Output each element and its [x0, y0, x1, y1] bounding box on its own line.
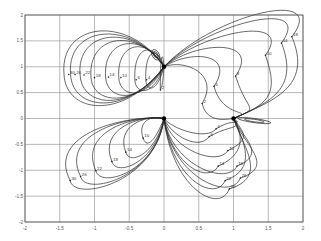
y-tick-label: 0.5: [17, 90, 24, 95]
contour-label: 26: [76, 70, 81, 75]
singular-point: [231, 116, 235, 120]
x-tick-label: -1: [92, 226, 97, 231]
contour-label: 10: [229, 146, 234, 151]
contour-label: 22: [226, 176, 231, 181]
contour-label: 14: [219, 161, 224, 166]
y-tick-label: -1: [19, 168, 24, 173]
contour-label: 30: [231, 184, 236, 189]
x-tick-label: 0: [163, 226, 166, 231]
contour-line: [91, 41, 164, 99]
contour-label: 4: [148, 75, 151, 80]
contour-label: 18: [293, 32, 298, 37]
contour-label: 18: [113, 157, 118, 162]
y-tick-label: 1: [20, 64, 23, 69]
axis-ticks: -2-1.5-1-0.500.511.5221.510.50-0.5-1-1.5…: [15, 13, 305, 231]
contour-chart: 2461014182226302481014181014182226304610…: [0, 0, 321, 241]
x-tick-label: -0.5: [125, 226, 133, 231]
contour-label: 18: [96, 73, 101, 78]
small-loops: [150, 48, 271, 125]
contour-label: 10: [144, 133, 149, 138]
contour-label: 14: [127, 147, 132, 152]
contour-line: [164, 31, 271, 118]
y-tick-label: 0: [20, 116, 23, 121]
contour-label: 26: [82, 172, 87, 177]
contour-line: [64, 31, 164, 106]
x-tick-label: 1.5: [265, 226, 272, 231]
x-tick-label: 0.5: [196, 226, 203, 231]
contour-label: 2: [203, 99, 206, 104]
contour-label: 18: [238, 161, 243, 166]
contour-line: [164, 65, 239, 120]
contour-label: 22: [97, 166, 102, 171]
contour-label: 14: [110, 72, 115, 77]
y-tick-label: -0.5: [15, 142, 23, 147]
contour-label: 10: [267, 51, 272, 56]
contour-line: [80, 37, 164, 100]
contour-label: 6: [137, 75, 140, 80]
singular-point: [162, 65, 166, 69]
contour-label: 30: [70, 70, 75, 75]
y-tick-label: -1.5: [15, 194, 23, 199]
x-tick-label: 2: [302, 226, 305, 231]
x-tick-label: -1.5: [56, 226, 64, 231]
contour-label: 10: [122, 73, 127, 78]
contour-line: [164, 57, 242, 119]
contour-label: 30: [71, 176, 76, 181]
contour-label: 22: [85, 70, 90, 75]
y-tick-label: 2: [20, 13, 23, 18]
x-tick-label: -2: [23, 226, 28, 231]
contour-line: [164, 119, 251, 199]
y-tick-label: 1.5: [17, 38, 24, 43]
contour-line: [164, 10, 299, 118]
contour-line: [164, 47, 250, 118]
contour-label: 14: [283, 38, 288, 43]
closed-loop: [238, 116, 272, 125]
y-tick-label: -2: [19, 220, 24, 225]
contour-label: 8: [237, 71, 240, 76]
x-tick-label: 1: [232, 226, 235, 231]
contour-line: [164, 119, 237, 143]
contour-label: 4: [215, 82, 218, 87]
contour-line: [164, 119, 238, 134]
singular-point: [162, 116, 166, 120]
contour-label: 26: [242, 173, 247, 178]
